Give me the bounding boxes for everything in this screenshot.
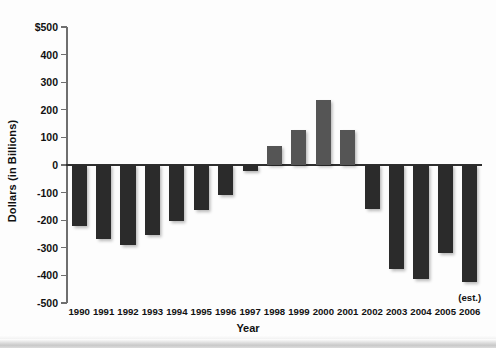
bar-2000 xyxy=(316,100,331,165)
y-tick-label: -400 xyxy=(0,269,58,281)
y-tick-label-text: 100 xyxy=(10,131,58,143)
bar-1994 xyxy=(169,165,184,221)
bar-1992 xyxy=(120,165,135,245)
y-tick-label: -300 xyxy=(0,242,58,254)
y-tick-label-text: $500 xyxy=(10,21,58,33)
bar-1995 xyxy=(194,165,209,210)
y-tick-label-text: -200 xyxy=(10,214,58,226)
y-tick-label-text: -300 xyxy=(10,242,58,254)
plot-area xyxy=(67,27,482,303)
page-edge-shadow xyxy=(0,339,496,348)
y-tick-label: 300 xyxy=(0,76,58,88)
y-tick-label: -500 xyxy=(0,297,58,309)
page-background: Dollars (in Billions) $5004003002001000-… xyxy=(0,0,496,348)
x-tick-label-2006: 2006 xyxy=(450,306,490,317)
y-tick-label-text: -100 xyxy=(10,187,58,199)
y-tick-label: 0 xyxy=(0,159,58,171)
bar-1998 xyxy=(267,146,282,165)
bar-2002 xyxy=(365,165,380,209)
bar-1999 xyxy=(291,130,306,165)
y-tick-label-text: 0 xyxy=(10,159,58,171)
bar-chart: Dollars (in Billions) $5004003002001000-… xyxy=(0,0,496,348)
bar-2005 xyxy=(438,165,453,253)
y-tick-label-text: 300 xyxy=(10,76,58,88)
bar-2006 xyxy=(462,165,477,282)
bar-2001 xyxy=(340,130,355,165)
bar-1990 xyxy=(72,165,87,226)
y-tick-label: 200 xyxy=(0,104,58,116)
bar-1991 xyxy=(96,165,111,239)
bar-2004 xyxy=(413,165,428,279)
y-tick-label: $500 xyxy=(0,21,58,33)
bar-1996 xyxy=(218,165,233,195)
y-tick-label: 400 xyxy=(0,49,58,61)
y-tick-label-text: -400 xyxy=(10,269,58,281)
bar-1997 xyxy=(243,165,258,171)
y-tick-label-text: 400 xyxy=(10,49,58,61)
x-axis-title: Year xyxy=(0,322,496,334)
bar-2003 xyxy=(389,165,404,269)
y-tick-label: 100 xyxy=(0,131,58,143)
y-tick-label: -200 xyxy=(0,214,58,226)
bar-1993 xyxy=(145,165,160,235)
y-tick-label-text: 200 xyxy=(10,104,58,116)
y-tick-label-text: -500 xyxy=(10,297,58,309)
estimate-annotation: (est.) xyxy=(450,292,490,303)
y-tick-label: -100 xyxy=(0,187,58,199)
